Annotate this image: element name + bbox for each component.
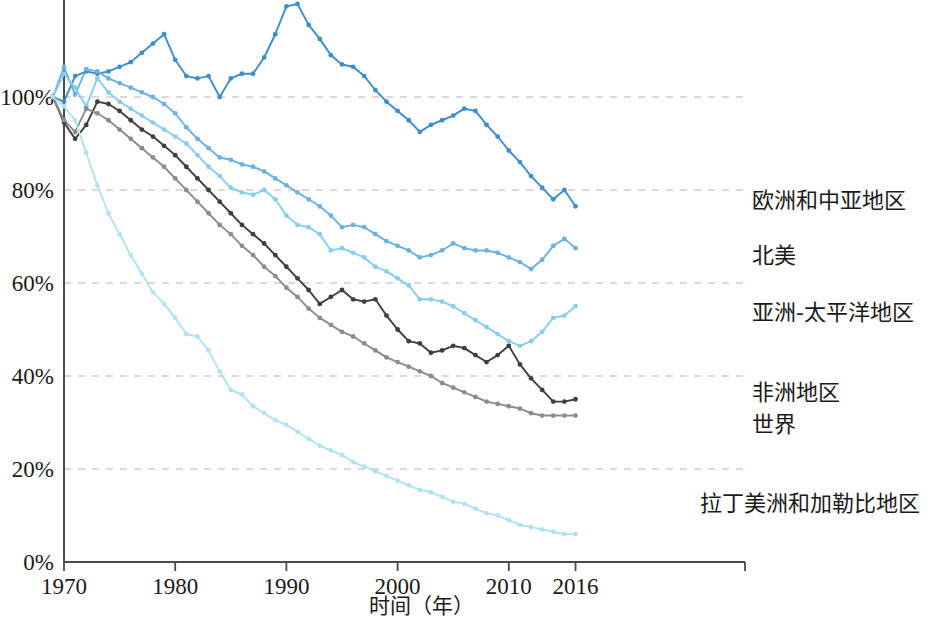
series-data-point: [139, 90, 144, 95]
series-data-point: [462, 311, 467, 316]
series-data-point: [373, 348, 378, 353]
series-data-point: [117, 232, 122, 237]
series-data-point: [62, 64, 67, 69]
series-data-point: [518, 406, 523, 411]
series-data-point: [306, 23, 311, 28]
series-data-point: [162, 32, 167, 37]
series-data-point: [340, 453, 345, 458]
series-data-point: [195, 153, 200, 158]
series-data-point: [306, 436, 311, 441]
series-data-point: [406, 248, 411, 253]
series-data-point: [362, 464, 367, 469]
series-data-point: [540, 413, 545, 418]
series-data-point: [518, 160, 523, 165]
series-data-point: [373, 232, 378, 237]
series-data-point: [106, 76, 111, 81]
series-data-point: [351, 460, 356, 465]
series-data-point: [373, 469, 378, 474]
series-data-point: [484, 360, 489, 365]
series-line: [53, 97, 576, 534]
series-data-point: [151, 134, 156, 139]
series-data-point: [117, 81, 122, 86]
x-axis-tick-label: 2010: [486, 574, 532, 599]
series-data-point: [384, 239, 389, 244]
series-data-point: [462, 501, 467, 506]
series-data-point: [306, 225, 311, 230]
series-data-point: [518, 343, 523, 348]
series-data-point: [540, 329, 545, 334]
series-data-point: [451, 113, 456, 118]
axes-group: [64, 0, 745, 571]
series-data-point: [273, 274, 278, 279]
series-data-point: [240, 71, 245, 76]
series-data-point: [340, 288, 345, 293]
series-data-point: [173, 176, 178, 181]
x-axis-tick-label: 2016: [553, 574, 599, 599]
series-data-point: [273, 197, 278, 202]
series-lines-group: [53, 4, 576, 534]
series-data-point: [473, 248, 478, 253]
series-data-point: [217, 174, 222, 179]
series-data-point: [429, 490, 434, 495]
series-data-point: [351, 250, 356, 255]
series-data-point: [406, 364, 411, 369]
series-data-point: [506, 343, 511, 348]
series-line: [53, 74, 576, 346]
series-data-point: [562, 236, 567, 241]
series-data-point: [451, 304, 456, 309]
series-data-point: [351, 222, 356, 227]
series-data-point: [206, 164, 211, 169]
series-data-point: [440, 248, 445, 253]
y-axis-tick-label: 40%: [12, 364, 54, 389]
series-inline-labels: 欧洲和中亚地区北美亚洲-太平洋地区非洲地区世界拉丁美洲和加勒比地区: [700, 188, 920, 516]
series-data-point: [529, 525, 534, 530]
series-data-point: [306, 197, 311, 202]
series-data-point: [518, 260, 523, 265]
series-data-point: [562, 188, 567, 193]
series-line: [53, 4, 576, 206]
series-data-point: [162, 127, 167, 132]
series-data-point: [262, 411, 267, 416]
series-data-point: [162, 102, 167, 107]
series-data-point: [284, 285, 289, 290]
series-data-point: [295, 276, 300, 281]
series-label: 欧洲和中亚地区: [752, 188, 906, 213]
series-data-point: [106, 90, 111, 95]
series-data-point: [417, 341, 422, 346]
series-data-point: [84, 106, 89, 111]
series-data-point: [106, 211, 111, 216]
series-data-point: [284, 183, 289, 188]
series-data-point: [251, 232, 256, 237]
series-data-point: [506, 148, 511, 153]
series-data-point: [95, 99, 100, 104]
series-data-point: [184, 332, 189, 337]
series-data-point: [251, 253, 256, 258]
series-data-point: [484, 248, 489, 253]
series-data-point: [417, 369, 422, 374]
series-data-point: [139, 50, 144, 55]
series-data-point: [228, 211, 233, 216]
series-data-point: [195, 334, 200, 339]
series-data-point: [73, 136, 78, 141]
series-data-point: [328, 295, 333, 300]
y-axis-tick-label: 20%: [12, 457, 54, 482]
series-data-point: [139, 146, 144, 151]
series-data-point: [117, 64, 122, 69]
series-data-point: [362, 74, 367, 79]
series-data-point: [306, 288, 311, 293]
series-data-point: [429, 297, 434, 302]
series-data-point: [340, 225, 345, 230]
series-line: [53, 67, 576, 269]
series-data-point: [306, 306, 311, 311]
series-data-point: [73, 92, 78, 97]
series-data-point: [273, 32, 278, 37]
series-data-point: [317, 302, 322, 307]
series-data-point: [484, 123, 489, 128]
series-data-point: [73, 118, 78, 123]
series-data-point: [273, 253, 278, 258]
series-data-point: [362, 255, 367, 260]
series-data-point: [406, 283, 411, 288]
series-data-point: [262, 188, 267, 193]
series-data-point: [506, 518, 511, 523]
series-data-point: [440, 381, 445, 386]
